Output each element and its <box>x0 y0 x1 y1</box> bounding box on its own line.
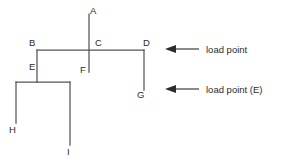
annotation-load-point-e: load point (E) <box>165 84 263 95</box>
structure-lines <box>16 14 144 145</box>
node-label-d: D <box>143 37 150 48</box>
node-label-a: A <box>90 5 97 16</box>
node-label-h: H <box>9 124 16 135</box>
node-labels: A B C D E F G H I <box>9 5 150 157</box>
load-point-arrow-head <box>165 45 176 53</box>
structural-diagram: A B C D E F G H I load point load point … <box>0 0 282 162</box>
load-point-e-label: load point (E) <box>206 84 263 95</box>
node-label-f: F <box>80 64 86 75</box>
load-point-label: load point <box>206 44 248 55</box>
node-label-b: B <box>29 37 35 48</box>
diagram-canvas: A B C D E F G H I load point load point … <box>0 0 282 162</box>
node-label-c: C <box>95 37 102 48</box>
node-label-i: I <box>67 146 70 157</box>
annotation-load-point: load point <box>165 44 248 55</box>
node-label-e: E <box>29 61 35 72</box>
node-label-g: G <box>137 89 144 100</box>
load-point-e-arrow-head <box>165 85 176 93</box>
